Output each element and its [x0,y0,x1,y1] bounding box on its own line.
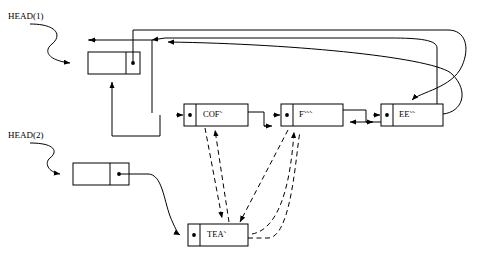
dashed-edge-tea-to-f [252,132,294,234]
edge-f-to-ee [343,110,373,122]
edge-ee-long-return [168,42,462,114]
node-ee-label: EE˜˜ [399,109,415,119]
dashed-edge-cof-to-tea [205,128,222,218]
edge-head1-to-list1 [30,24,70,63]
dashed-edge-f-to-tea [240,130,288,222]
edge-list1-to-ee [133,30,466,100]
node-f-label: F˜˜˜ [299,109,312,119]
edge-cof-to-list1-bottom [112,82,160,136]
diagram-canvas: HEAD(1) HEAD(2) COF˜ F˜˜˜ EE˜˜ TEA˜ [0,0,479,260]
edge-cof-to-list1-top [88,40,152,113]
dashed-edge-tea-right [248,132,300,238]
node-box-list1-first [88,52,140,74]
edge-ee-to-top-rail [152,38,437,104]
head-1-label: HEAD(1) [8,11,44,21]
edge-cof-next-to-f [248,112,272,126]
head-2-label: HEAD(2) [8,130,44,140]
dashed-edge-tea-to-cof [215,130,229,222]
dashed-edges [205,128,300,238]
edge-head2-to-list2 [30,143,60,174]
node-tea-label: TEA˜ [207,229,226,239]
node-cof-label: COF˜ [203,109,222,119]
diagram-svg [0,0,479,260]
